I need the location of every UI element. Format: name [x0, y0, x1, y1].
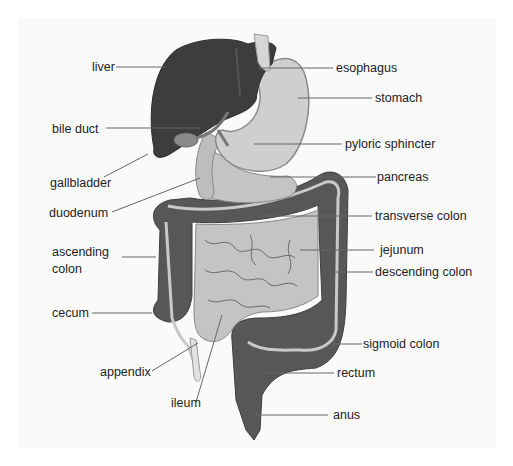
label-bile-duct: bile duct — [52, 122, 99, 136]
label-ascending-colon-line2: colon — [52, 262, 82, 276]
label-esophagus: esophagus — [336, 61, 397, 75]
label-transverse-colon: transverse colon — [375, 209, 467, 223]
label-sigmoid-colon: sigmoid colon — [363, 337, 439, 351]
label-rectum: rectum — [337, 366, 375, 380]
label-duodenum: duodenum — [49, 206, 108, 220]
label-stomach: stomach — [375, 91, 422, 105]
label-cecum: cecum — [52, 306, 89, 320]
label-pancreas: pancreas — [377, 170, 428, 184]
label-jejunum: jejunum — [380, 243, 424, 257]
digestive-system-illustration — [0, 0, 513, 466]
label-pyloric-sphincter: pyloric sphincter — [345, 137, 435, 151]
label-ascending-colon-line1: ascending — [52, 245, 109, 259]
label-liver: liver — [92, 60, 115, 74]
label-anus: anus — [333, 408, 360, 422]
label-ileum: ileum — [171, 396, 201, 410]
label-descending-colon: descending colon — [375, 265, 472, 279]
label-gallbladder: gallbladder — [50, 176, 111, 190]
gallbladder-shape — [174, 133, 198, 147]
label-appendix: appendix — [100, 365, 151, 379]
